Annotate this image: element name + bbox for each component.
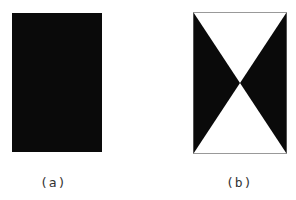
figure-a-black-rectangle — [12, 13, 102, 152]
figure-b-bowtie-rectangle — [193, 12, 287, 154]
figure-a-caption: (a) — [40, 175, 66, 190]
figure-b-caption: (b) — [226, 175, 252, 190]
